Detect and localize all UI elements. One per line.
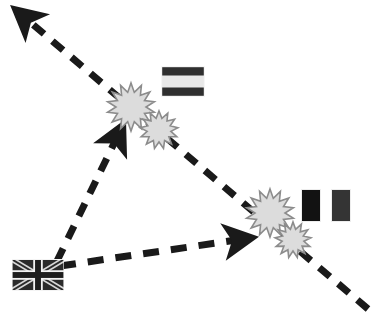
attack-vector-from-uk-north[interactable] [57,140,116,261]
attack-vector-northwest[interactable] [28,20,368,309]
diagram-canvas [0,0,382,321]
attack-vector-from-uk-east[interactable] [60,240,236,266]
scene-vector-layer [0,0,382,321]
arrow-group [28,20,368,309]
